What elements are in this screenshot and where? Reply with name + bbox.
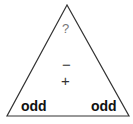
minus-sign: − <box>62 57 71 72</box>
bottom-left-label: odd <box>21 99 47 113</box>
top-unknown-label: ? <box>62 22 69 35</box>
plus-sign: + <box>61 73 70 88</box>
bottom-right-label: odd <box>91 99 117 113</box>
